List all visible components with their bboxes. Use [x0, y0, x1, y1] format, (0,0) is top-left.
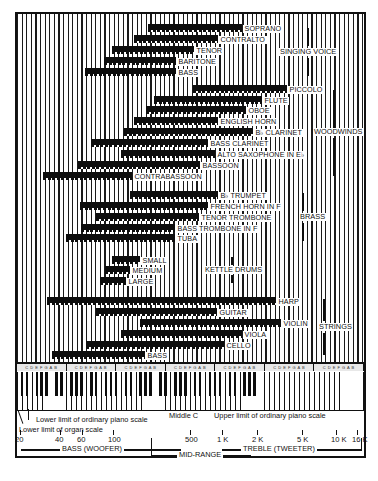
black-key [144, 372, 147, 396]
range-bar [112, 46, 194, 55]
black-key [248, 372, 251, 396]
bar-dash [124, 134, 253, 136]
range-bar [43, 172, 132, 181]
group-label-singing-voice: SINGING VOICE [279, 48, 337, 56]
black-key [229, 372, 232, 396]
group-label-woodwinds: WOODWINDS [313, 128, 363, 136]
black-key [243, 372, 246, 396]
range-bar [146, 106, 246, 115]
kettle-brace-bottom [231, 275, 233, 283]
bar-dash [112, 52, 194, 54]
bass-woofer-label: BASS (WOOFER) [60, 445, 124, 453]
bar-label: TENOR [195, 47, 224, 55]
frequency-label: 500 [185, 436, 198, 444]
frequency-label: 20 [15, 436, 23, 444]
singing-brace-bottom [307, 58, 309, 76]
bar-label: SMALL [141, 257, 168, 265]
black-key [70, 372, 73, 396]
bar-dash [134, 41, 218, 43]
bar-dash [154, 102, 262, 104]
black-key [115, 372, 118, 396]
bar-label: BARITONE [177, 58, 217, 66]
range-bar [78, 161, 200, 170]
range-bar [96, 213, 199, 222]
bar-dash [86, 347, 224, 349]
strings-brace-top [323, 299, 325, 321]
range-bar [86, 341, 224, 350]
bar-label: CONTRALTO [219, 36, 267, 44]
bar-dash [85, 74, 176, 76]
frequency-label: 10 K [331, 436, 347, 444]
black-key [36, 372, 39, 396]
black-key [179, 372, 182, 396]
range-bar [85, 68, 176, 77]
black-key [174, 372, 177, 396]
bar-label: SOPRANO [243, 25, 283, 33]
octave-label: C D E F G A B [314, 364, 364, 371]
black-key [184, 372, 187, 396]
range-bar [96, 308, 217, 317]
range-bar [148, 24, 242, 33]
bar-label: BASS [146, 352, 169, 360]
black-key [194, 372, 197, 396]
black-key [214, 372, 217, 396]
bar-label: BASS CLARINET [209, 140, 270, 148]
bar-dash [52, 357, 145, 359]
woodwinds-brace-bottom [333, 138, 335, 176]
bar-label: ALTO SAXOPHONE IN E♭ [216, 151, 306, 159]
bar-label: MEDIUM [131, 267, 164, 275]
bar-dash [140, 325, 281, 327]
bar-label: BASSOON [201, 162, 240, 170]
black-key [164, 372, 167, 396]
range-bar [100, 277, 126, 286]
bar-label: ENGLISH HORN [219, 118, 278, 126]
group-label-kettle-drums: KETTLE DRUMS [204, 266, 263, 274]
group-label-strings: STRINGS [318, 323, 353, 331]
black-key [219, 372, 222, 396]
bar-label: B♭ CLARINET [254, 129, 303, 137]
woodwinds-brace-top [333, 90, 335, 128]
frequency-label: 100 [108, 436, 121, 444]
octave-label: C D E F G A B [215, 364, 265, 371]
black-key [105, 372, 108, 396]
bar-dash [100, 283, 126, 285]
black-key [40, 372, 43, 396]
brass-brace-bottom [302, 223, 304, 241]
upper-limit-piano-note: Upper limit of ordinary piano scale [214, 412, 326, 420]
bar-dash [104, 63, 176, 65]
octave-label: C D E F G A B [67, 364, 117, 371]
range-bar [134, 117, 218, 126]
range-bar [121, 150, 215, 159]
black-key [209, 372, 212, 396]
bar-label: GUITAR [218, 309, 248, 317]
range-bar [52, 351, 145, 360]
strings-brace-bottom [323, 333, 325, 355]
black-key [125, 372, 128, 396]
range-bar [112, 256, 140, 265]
bar-label: CONTRABASSOON [133, 173, 203, 181]
brass-brace-top [302, 193, 304, 211]
black-key [45, 372, 48, 396]
black-key [139, 372, 142, 396]
white-keys [17, 372, 364, 410]
black-key [199, 372, 202, 396]
piano-keyboard: C D E F G A BC D E F G A BC D E F G A BC… [17, 362, 364, 411]
octave-label: C D E F G A B [166, 364, 216, 371]
bar-label: FLUTE [263, 97, 289, 105]
bar-dash [148, 30, 242, 32]
bar-label: HARP [277, 298, 300, 306]
frequency-label: 1 K [217, 436, 228, 444]
kettle-brace-top [231, 257, 233, 265]
octave-label-row: C D E F G A BC D E F G A BC D E F G A BC… [17, 364, 364, 371]
bar-dash [78, 167, 200, 169]
frequency-label: 60 [77, 436, 85, 444]
frequency-scale-area: Lower limit of ordinary piano scale Lowe… [17, 408, 364, 456]
bar-dash [193, 91, 287, 93]
bar-dash [112, 262, 140, 264]
lower-limit-piano-note: Lower limit of ordinary piano scale [36, 416, 148, 424]
range-bar [193, 85, 287, 94]
black-key [26, 372, 29, 396]
bar-label: BASS TROMBONE IN F [176, 225, 259, 233]
bar-label: BASS [177, 69, 200, 77]
octave-label: C D E F G A B [116, 364, 166, 371]
